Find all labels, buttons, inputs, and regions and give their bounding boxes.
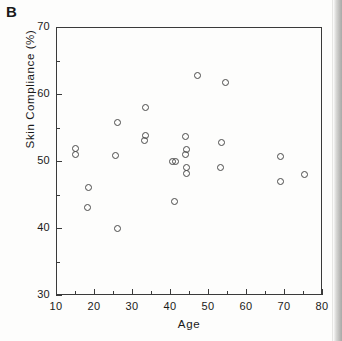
x-tick-label: 10 [41, 300, 71, 312]
x-tick-label: 20 [79, 300, 109, 312]
plot-frame [56, 27, 322, 295]
x-tick-minor [75, 291, 76, 295]
y-tick-minor [56, 128, 60, 129]
y-tick-major [56, 161, 62, 162]
x-tick-major [322, 289, 323, 295]
y-tick-major [56, 228, 62, 229]
figure-panel: B Skin Compliance (%) Age 10203040506070… [0, 0, 342, 341]
x-tick-minor [303, 291, 304, 295]
x-tick-minor [227, 291, 228, 295]
scatter-point [114, 225, 121, 232]
x-tick-major [284, 289, 285, 295]
y-tick-minor [56, 262, 60, 263]
panel-label: B [6, 4, 17, 19]
scatter-point [114, 119, 121, 126]
y-tick-minor [56, 61, 60, 62]
x-tick-minor [113, 291, 114, 295]
scatter-point [142, 104, 149, 111]
y-tick-label: 60 [20, 87, 50, 99]
x-tick-major [94, 289, 95, 295]
scatter-point [301, 171, 308, 178]
scatter-point [112, 152, 119, 159]
x-tick-label: 50 [193, 300, 223, 312]
x-tick-major [208, 289, 209, 295]
y-tick-major [56, 27, 62, 28]
y-tick-major [56, 295, 62, 296]
x-tick-major [170, 289, 171, 295]
y-tick-label: 70 [20, 20, 50, 32]
scatter-point [183, 170, 190, 177]
x-tick-label: 70 [269, 300, 299, 312]
x-tick-minor [151, 291, 152, 295]
scatter-point [72, 151, 79, 158]
x-tick-label: 30 [117, 300, 147, 312]
x-tick-major [132, 289, 133, 295]
page-edge-line [332, 0, 333, 341]
y-tick-label: 50 [20, 154, 50, 166]
scatter-point [222, 79, 229, 86]
scatter-point [277, 178, 284, 185]
x-tick-label: 80 [307, 300, 337, 312]
x-tick-label: 40 [155, 300, 185, 312]
y-tick-label: 30 [20, 288, 50, 300]
page-edge-shadow [333, 0, 342, 341]
x-tick-minor [265, 291, 266, 295]
x-axis-title: Age [56, 318, 322, 330]
x-tick-minor [189, 291, 190, 295]
scatter-point [172, 158, 179, 165]
x-tick-label: 60 [231, 300, 261, 312]
x-tick-major [246, 289, 247, 295]
y-tick-minor [56, 195, 60, 196]
y-tick-label: 40 [20, 221, 50, 233]
y-tick-major [56, 94, 62, 95]
